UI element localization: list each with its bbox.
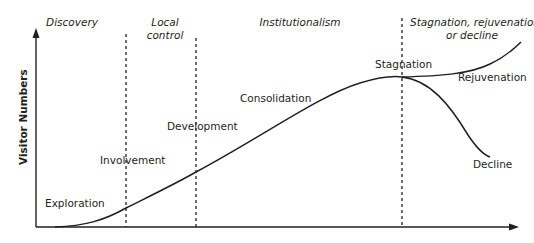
decline-curve [402, 77, 490, 157]
phase-discovery: Discovery [32, 16, 112, 29]
y-axis-label: Visitor Numbers [17, 75, 29, 165]
stage-stagnation: Stagnation [375, 58, 432, 70]
main-growth-curve [55, 77, 402, 227]
y-axis-arrow-icon [33, 28, 40, 38]
stage-exploration: Exploration [45, 197, 105, 209]
stage-development: Development [167, 120, 238, 132]
stage-involvement: Involvement [100, 154, 165, 166]
stage-rejuvenation: Rejuvenation [458, 71, 527, 83]
phase-institutionalism: Institutionalism [250, 16, 350, 29]
stage-consolidation: Consolidation [240, 92, 311, 104]
stage-decline: Decline [473, 158, 512, 170]
phase-stagnation-rejuvenation-decline: Stagnation, rejuvenation or decline [410, 16, 534, 42]
x-axis-arrow-icon [509, 224, 519, 231]
phase-local-control: Local control [135, 16, 195, 42]
